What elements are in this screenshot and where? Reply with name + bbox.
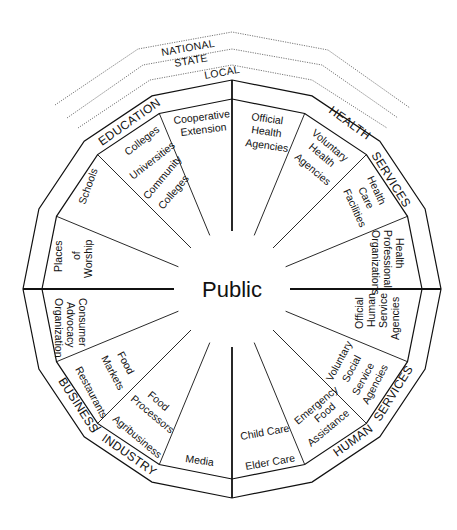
label-worship: Worship (82, 240, 94, 278)
label-health-4: Health (394, 238, 406, 269)
label-of: of (70, 251, 82, 260)
label-official-2: Official (353, 297, 365, 329)
label-agencies-3: Agencies (389, 297, 401, 340)
label-media: Media (185, 452, 215, 468)
label-human: Human (365, 293, 377, 327)
label-professional: Professional (382, 230, 394, 288)
center-label-public: Public (202, 277, 262, 302)
label-advocacy: Advocacy (65, 302, 77, 348)
label-service: Service (377, 293, 389, 328)
label-places: Places (52, 240, 64, 272)
sector-health: HEALTH (326, 103, 373, 143)
sector-education: EDUCATION (96, 95, 163, 148)
label-schools: Schools (76, 166, 100, 205)
label-child-care: Child Care (239, 422, 290, 442)
public-health-partners-diagram: LOCAL STATE NATIONAL Public EDUCATION HE… (0, 0, 457, 530)
label-organization: Organization (53, 298, 65, 358)
label-organizations: Organizations (370, 230, 382, 295)
label-elder-care: Elder Care (244, 451, 296, 472)
level-local: LOCAL (203, 63, 240, 81)
label-agencies: Agencies (245, 136, 289, 154)
label-consumer: Consumer (77, 298, 89, 347)
segment-divider (254, 343, 305, 465)
